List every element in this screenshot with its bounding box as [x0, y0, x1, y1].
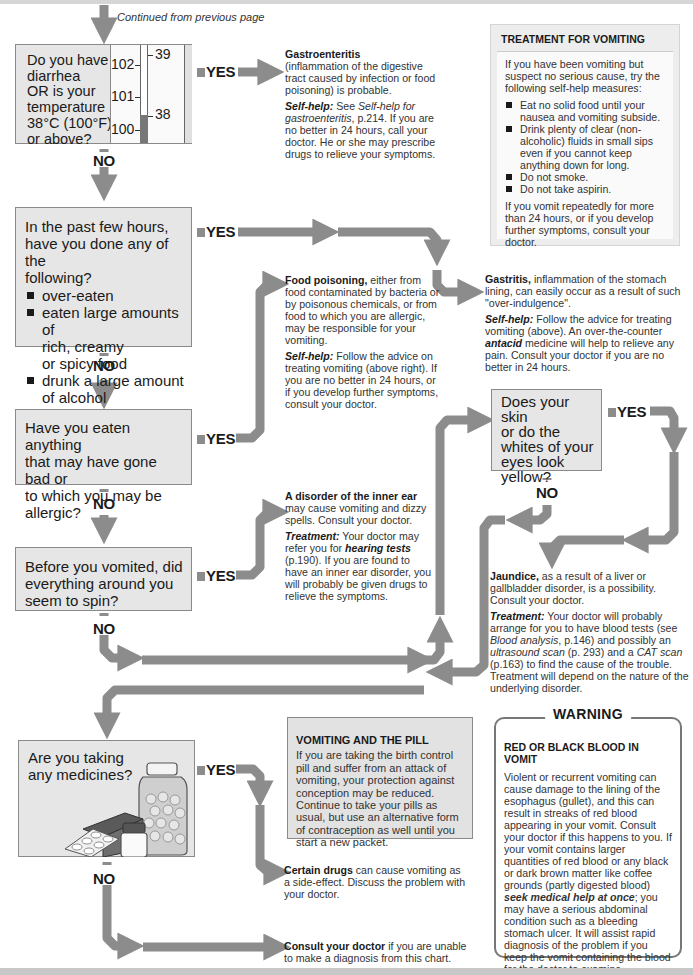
- fahrenheit-tick-101: 101: [111, 89, 134, 105]
- question-line: Have you eaten anything: [25, 419, 185, 453]
- question-spinning: Before you vomited, did everything aroun…: [15, 547, 192, 611]
- question-eaten-bad-food: Have you eaten anything that may have go…: [15, 409, 192, 485]
- warning-banner: WARNING: [545, 708, 631, 720]
- diagnosis-certain-drugs: Certain drugs can cause vomiting as a si…: [284, 864, 469, 904]
- yes-label: YES: [197, 223, 235, 240]
- measures-list: Eat no solid food until your nausea and …: [505, 99, 667, 195]
- panel-title: RED OR BLACK BLOOD IN VOMIT: [504, 741, 672, 765]
- question-line: Does your skin: [501, 394, 596, 424]
- treatment-label: Treatment:: [490, 610, 545, 622]
- no-label: NO: [93, 870, 115, 887]
- cross-reference: CAT scan: [637, 646, 683, 658]
- yes-label: YES: [197, 63, 235, 80]
- question-line: In the past few hours,: [25, 218, 185, 235]
- diagnosis-title: Food poisoning,: [285, 274, 367, 286]
- diagnosis-body: may cause vomiting and dizzy spells. Con…: [285, 502, 426, 526]
- text: over-eaten: [42, 287, 114, 304]
- question-line: Before you vomited, did: [25, 558, 185, 575]
- diagnosis-title: Gastroenteritis: [285, 48, 360, 60]
- panel-intro: If you have been vomiting but suspect no…: [505, 58, 667, 94]
- yes-label: YES: [608, 403, 646, 420]
- text: See: [333, 100, 358, 112]
- diagnosis-title: Gastritis,: [485, 273, 531, 285]
- question-line: have you done any of the: [25, 235, 185, 269]
- list-item: Do not take aspirin.: [505, 183, 667, 195]
- list-item: over-eaten: [25, 287, 185, 304]
- question-line: eyes look: [501, 454, 596, 469]
- panel-body: Violent or recurrent vomiting can cause …: [504, 771, 672, 975]
- thermometer-illustration: 102 101 100 39 38: [110, 45, 192, 143]
- selfhelp-label: Self-help:: [285, 100, 333, 112]
- no-label: NO: [536, 484, 558, 501]
- question-line: everything around you: [25, 575, 185, 592]
- panel-body: If you are taking the birth control pill…: [296, 749, 464, 848]
- yes-label: YES: [197, 567, 235, 584]
- selfhelp-label: Self-help:: [285, 350, 333, 362]
- text: ; you may have a serious abdominal condi…: [504, 891, 671, 975]
- diagnosis-inner-ear: A disorder of the inner ear may cause vo…: [285, 490, 435, 606]
- question-taking-medicines: Are you taking any medicines?: [18, 740, 195, 857]
- tick-mark: [148, 55, 153, 56]
- diagnosis-gastroenteritis: Gastroenteritis(inflammation of the dige…: [285, 48, 445, 164]
- question-line: yellow?: [501, 469, 596, 484]
- text: , p.146) and possibly an: [558, 634, 671, 646]
- question-line: following?: [25, 269, 185, 286]
- list-item: Eat no solid food until your nausea and …: [505, 99, 667, 123]
- text: (p.163) to find the cause of the trouble…: [490, 658, 689, 694]
- panel-body: If you have been vomiting but suspect no…: [497, 51, 673, 239]
- cross-reference: hearing tests: [345, 542, 411, 554]
- treatment-for-vomiting-panel: TREATMENT FOR VOMITING If you have been …: [490, 24, 680, 246]
- panel-title: TREATMENT FOR VOMITING: [501, 33, 645, 45]
- diagnosis-gastritis: Gastritis, inflammation of the stomach l…: [485, 273, 690, 377]
- list-item: drunk a large amountof alcohol: [25, 372, 185, 406]
- question-yellow-skin: Does your skin or do the whites of your …: [491, 389, 602, 471]
- emphasis-text: seek medical help at once: [504, 891, 635, 903]
- thermometer-mercury: [140, 115, 148, 143]
- question-line: seem to spin?: [25, 592, 185, 609]
- list-item: Do not smoke.: [505, 171, 667, 183]
- text: rich, creamy: [42, 338, 124, 355]
- diagnosis-consult-doctor: Consult your doctor if you are unable to…: [284, 940, 474, 968]
- diagnosis-food-poisoning: Food poisoning, either from food contami…: [285, 274, 440, 414]
- medicine-bottles-illustration: [63, 759, 193, 857]
- question-line: whites of your: [501, 439, 596, 454]
- treatment-label: Treatment:: [285, 530, 340, 542]
- text: Violent or recurrent vomiting can cause …: [504, 771, 672, 891]
- diagnosis-title: A disorder of the inner ear: [285, 490, 417, 502]
- no-label: NO: [93, 152, 115, 169]
- thermometer-frame: [184, 45, 192, 143]
- question-diarrhea-temperature: Do you have diarrhea OR is your temperat…: [15, 44, 192, 144]
- question-line: or do the: [501, 424, 596, 439]
- yes-label: YES: [197, 430, 235, 447]
- text: (p.190). If you are found to have an inn…: [285, 554, 431, 602]
- question-line: that may have gone bad or: [25, 453, 185, 487]
- cross-reference: ultrasound scan: [490, 646, 565, 658]
- yes-label: YES: [197, 761, 235, 778]
- selfhelp-label: Self-help:: [485, 313, 533, 325]
- diagnosis-body: (inflammation of the digestive tract cau…: [285, 60, 435, 96]
- celsius-tick-39: 39: [155, 47, 171, 63]
- celsius-tick-38: 38: [155, 107, 171, 123]
- cross-reference: Blood analysis: [490, 634, 558, 646]
- cross-reference: antacid: [485, 337, 522, 349]
- question-recent-indulgence: In the past few hours, have you done any…: [15, 207, 192, 347]
- warning-blood-in-vomit-panel: WARNING RED OR BLACK BLOOD IN VOMIT Viol…: [494, 717, 682, 958]
- diagnosis-title: Jaundice,: [490, 570, 539, 582]
- question-options-list: over-eaten eaten large amounts ofrich, c…: [25, 287, 185, 406]
- tick-mark: [148, 116, 153, 117]
- diagnosis-jaundice: Jaundice, as a result of a liver or gall…: [490, 570, 690, 698]
- text: (p. 293) and a: [565, 646, 637, 658]
- text: drunk a large amount: [42, 372, 184, 389]
- text: of alcohol: [42, 389, 106, 406]
- vomiting-and-the-pill-panel: VOMITING AND THE PILL If you are taking …: [287, 717, 473, 839]
- no-label: NO: [93, 357, 115, 374]
- text: eaten large amounts of: [42, 304, 179, 338]
- continued-note: Continued from previous page: [117, 11, 264, 23]
- bottom-border: [0, 968, 693, 975]
- no-label: NO: [93, 620, 115, 637]
- diagnosis-title: Consult your doctor: [284, 940, 385, 952]
- diagnosis-title: Certain drugs: [284, 864, 353, 876]
- fahrenheit-tick-102: 102: [111, 57, 134, 73]
- panel-outro: If you vomit repeatedly for more than 24…: [505, 200, 667, 248]
- no-label: NO: [93, 495, 115, 512]
